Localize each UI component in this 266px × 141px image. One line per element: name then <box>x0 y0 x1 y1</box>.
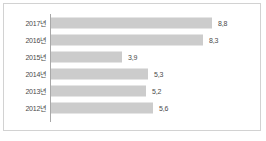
value-label: 8,3 <box>209 36 218 43</box>
bar-row: 2014년 5,3 <box>4 65 260 82</box>
category-label: 2014년 <box>4 69 46 79</box>
value-label: 5,3 <box>154 70 163 77</box>
bar-2013 <box>51 85 146 96</box>
bar-2012 <box>51 102 153 113</box>
plot-area: 2017년 8,8 2016년 8,3 2015년 3,9 2014년 5,3 … <box>4 4 260 130</box>
bar-row: 2016년 8,3 <box>4 31 260 48</box>
value-label: 5,2 <box>152 87 161 94</box>
chart-frame: 2017년 8,8 2016년 8,3 2015년 3,9 2014년 5,3 … <box>3 3 261 131</box>
bar-2016 <box>51 34 203 45</box>
value-label: 3,9 <box>128 53 137 60</box>
category-label: 2016년 <box>4 35 46 45</box>
bar-row: 2015년 3,9 <box>4 48 260 65</box>
category-label: 2017년 <box>4 18 46 28</box>
bar-row: 2012년 5,6 <box>4 99 260 116</box>
category-label: 2012년 <box>4 103 46 113</box>
category-label: 2015년 <box>4 52 46 62</box>
bar-row: 2013년 5,2 <box>4 82 260 99</box>
value-label: 8,8 <box>218 19 227 26</box>
value-label: 5,6 <box>159 104 168 111</box>
category-label: 2013년 <box>4 86 46 96</box>
bar-row: 2017년 8,8 <box>4 14 260 31</box>
bar-2017 <box>51 17 212 28</box>
bar-2014 <box>51 68 148 79</box>
bar-2015 <box>51 51 122 62</box>
